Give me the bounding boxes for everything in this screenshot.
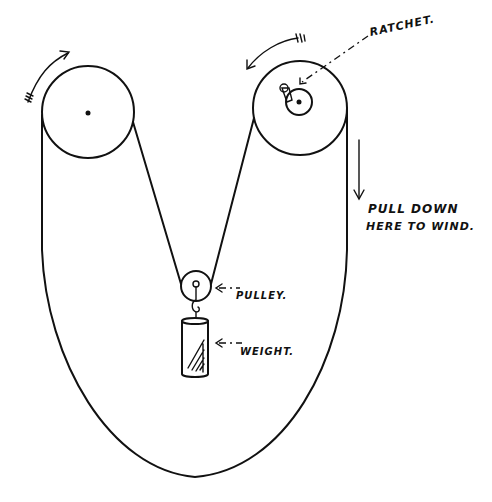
right-wheel (253, 61, 347, 155)
pull-down-label-line1: PULL DOWN (368, 202, 458, 216)
pull-down-arrow-icon (354, 140, 364, 199)
cord-outer-loop (42, 108, 347, 477)
weight-label: WEIGHT. (240, 345, 294, 359)
left-wheel-axle-icon (86, 111, 91, 116)
cord-left-to-pulley (133, 122, 181, 284)
pull-down-label-line2: HERE TO WIND. (366, 220, 475, 234)
left-rotation-arrow-icon (25, 51, 69, 102)
weight (182, 318, 208, 377)
right-rotation-arrow-icon (247, 34, 305, 69)
left-wheel (42, 66, 134, 158)
ratchet-leader-line (302, 36, 368, 82)
right-wheel-axle-icon (297, 100, 302, 105)
pulley (181, 271, 211, 318)
cord-right-to-pulley (211, 118, 254, 284)
weight-drive-diagram (0, 0, 492, 502)
pulley-label: PULLEY. (236, 289, 287, 303)
